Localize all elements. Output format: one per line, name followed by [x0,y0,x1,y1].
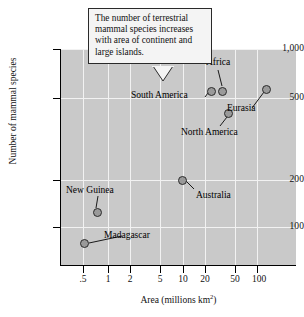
y-axis-line [60,49,61,265]
point-label-madagascar: Madagascar [104,230,150,240]
plot-area [61,49,296,265]
y-tick-label-500: 500 [256,93,304,103]
y-tick-label-100: 100 [256,222,304,232]
x-axis-line [60,265,296,266]
point-label-eurasia: Eurasia [227,103,256,113]
y-tick-500 [53,98,61,99]
gridline-x-50 [235,49,236,265]
point-label-new-guinea: New Guinea [66,185,114,195]
x-tick-50 [235,266,236,273]
point-label-south-america: South America [131,90,188,100]
x-axis-title-main: Area (millions km [140,295,210,305]
x-tick-0.5 [83,266,84,273]
chart-figure: 1,000 500 200 100 .5 1 2 5 10 20 50 100 … [0,0,304,317]
gridline-x-100 [257,49,258,265]
callout-tail-icon [150,66,176,82]
gridline-x-0.5 [83,49,84,265]
x-tick-label-2: 2 [117,275,143,285]
x-tick-20 [205,266,206,273]
x-axis-title: Area (millions km2) [61,292,296,305]
gridline-x-10 [183,49,184,265]
x-tick-label-50: 50 [222,275,248,285]
y-tick-200 [53,180,61,181]
x-tick-label-100: 100 [246,275,272,285]
x-tick-100 [257,266,258,273]
x-tick-1 [108,266,109,273]
y-tick-label-1000: 1,000 [256,44,304,54]
data-point-new-guinea[interactable] [93,208,102,217]
data-point-africa[interactable] [218,87,227,96]
y-tick-label-200: 200 [256,175,304,185]
point-label-australia: Australia [196,190,231,200]
x-tick-2 [130,266,131,273]
data-point-madagascar[interactable] [80,239,89,248]
y-tick-1000 [53,49,61,50]
data-point-south-america[interactable] [207,87,216,96]
point-label-north-america: North America [181,127,238,137]
data-point-australia[interactable] [178,176,187,185]
y-tick-100 [53,227,61,228]
gridline-x-20 [205,49,206,265]
y-axis-title: Number of mammal species [8,41,18,181]
x-tick-label-0.5: .5 [70,275,96,285]
data-point-eurasia[interactable] [262,85,271,94]
x-tick-10 [183,266,184,273]
x-tick-5 [160,266,161,273]
x-axis-title-close: ) [213,295,216,305]
x-tick-label-20: 20 [192,275,218,285]
callout-box: The number of terrestrial mammal species… [88,8,212,64]
